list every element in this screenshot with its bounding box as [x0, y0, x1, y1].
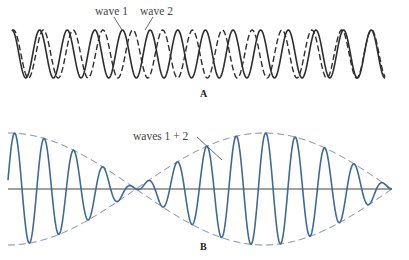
sum-label: waves 1 + 2	[133, 130, 189, 142]
wave-1-label: wave 1	[95, 5, 128, 17]
panel-b: waves 1 + 2 B	[8, 130, 392, 252]
wave-2-leader-line	[145, 17, 153, 30]
wave-diagram: wave 1 wave 2 A waves 1 + 2 B	[0, 0, 409, 260]
panel-a-label: A	[200, 88, 208, 99]
wave-1-curve	[12, 30, 385, 78]
wave-2-label: wave 2	[140, 5, 173, 17]
panel-a: wave 1 wave 2 A	[12, 5, 385, 99]
wave-1-leader-line	[114, 17, 122, 30]
panel-b-label: B	[200, 241, 207, 252]
